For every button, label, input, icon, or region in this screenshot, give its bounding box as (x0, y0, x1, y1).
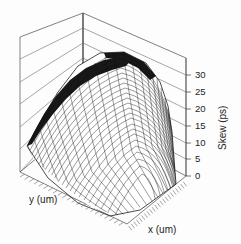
x-axis-title: x (um) (148, 224, 176, 235)
z-axis-tick-labels: 30 25 20 15 10 5 0 (195, 69, 206, 181)
z-axis-title: Skew (ps) (217, 106, 228, 150)
z-axis-ticks (186, 75, 191, 176)
z-tick-label-25: 25 (195, 86, 206, 97)
z-tick-label-20: 20 (195, 103, 206, 114)
plot-canvas: 30 25 20 15 10 5 0 Skew (ps) (0, 0, 241, 244)
z-axis: 30 25 20 15 10 5 0 Skew (ps) (186, 58, 228, 181)
surface-plot-figure: 30 25 20 15 10 5 0 Skew (ps) (0, 0, 241, 244)
z-tick-label-10: 10 (195, 137, 206, 148)
z-tick-label-15: 15 (195, 120, 206, 131)
z-tick-label-5: 5 (195, 153, 200, 164)
z-tick-label-30: 30 (195, 69, 206, 80)
y-axis-title: y (um) (29, 194, 57, 205)
z-tick-label-0: 0 (195, 170, 200, 181)
